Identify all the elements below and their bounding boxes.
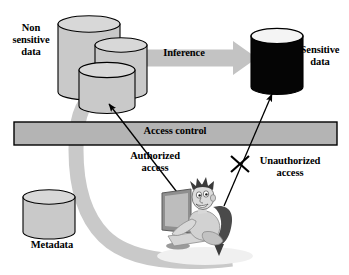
label-access-control: Access control [120, 125, 230, 137]
cylinder-front [79, 62, 135, 113]
cylinder-metadata [23, 190, 75, 239]
label-metadata: Metadata [14, 239, 90, 251]
label-inference: Inference [150, 47, 218, 59]
diagram-canvas: Non sensitive data Sensitive data Infere… [0, 0, 349, 275]
person-at-computer-illustration [157, 177, 253, 265]
label-non-sensitive-data: Non sensitive data [2, 22, 60, 57]
label-authorized-access: Authorized access [116, 150, 194, 174]
label-sensitive-data: Sensitive data [292, 44, 348, 68]
label-unauthorized-access: Unauthorized access [243, 155, 337, 179]
unauthorized-access-arrow [224, 94, 272, 206]
